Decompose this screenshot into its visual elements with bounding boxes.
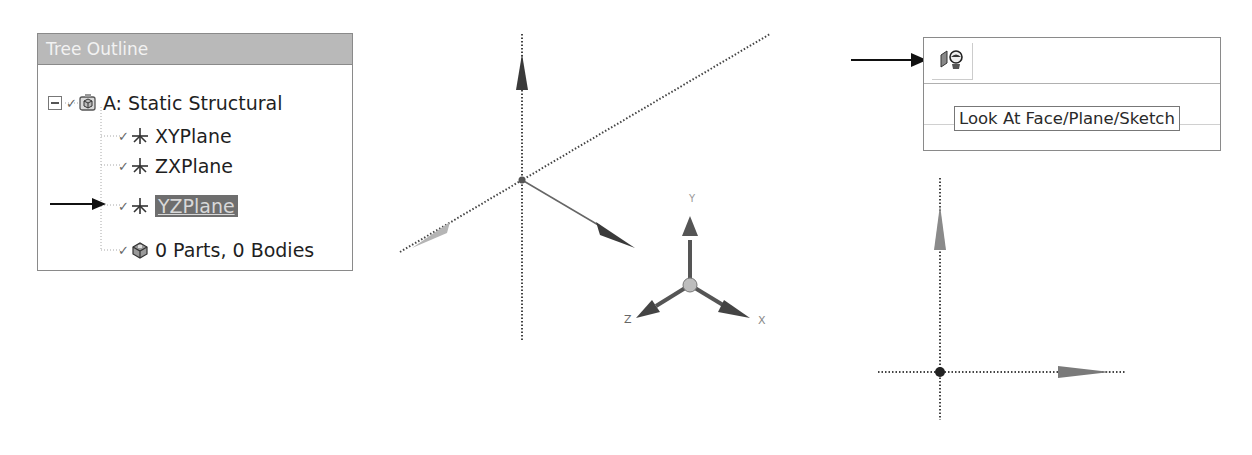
plane-axes-perspective	[400, 34, 770, 340]
triad-x-label: X	[758, 314, 766, 327]
triad-y-label: Y	[688, 193, 696, 204]
coordinate-triad: Y Z X	[624, 193, 766, 327]
triad-z-label: Z	[624, 313, 632, 326]
plane-axes-normal-view	[878, 178, 1126, 420]
viewport-3d: Y Z X	[0, 0, 1252, 455]
